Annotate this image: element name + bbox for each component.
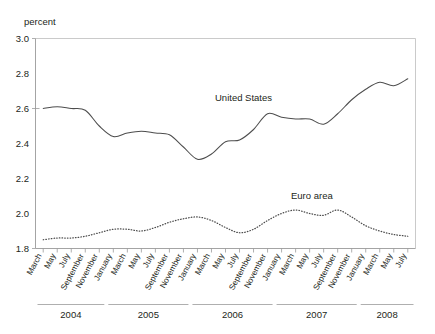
y-tick-label: 2.8 xyxy=(16,68,29,79)
y-tick-label: 2.4 xyxy=(16,138,29,149)
series-label-euro-area: Euro area xyxy=(291,190,333,201)
y-tick-label: 2.0 xyxy=(16,208,29,219)
chart-figure: percent 3.02.82.62.42.22.01.8 MarchMayJu… xyxy=(0,0,435,334)
y-tick-label: 1.8 xyxy=(16,243,29,254)
year-group-label: 2004 xyxy=(60,309,81,320)
year-group-label: 2005 xyxy=(138,309,159,320)
year-group-label: 2008 xyxy=(377,309,398,320)
y-tick-label: 2.2 xyxy=(16,173,29,184)
y-tick-label: 2.6 xyxy=(16,103,29,114)
series-label-united-states: United States xyxy=(215,92,272,103)
year-group-label: 2006 xyxy=(222,309,243,320)
y-axis-title: percent xyxy=(24,16,56,27)
y-tick-label: 3.0 xyxy=(16,33,29,44)
year-group-label: 2007 xyxy=(306,309,327,320)
